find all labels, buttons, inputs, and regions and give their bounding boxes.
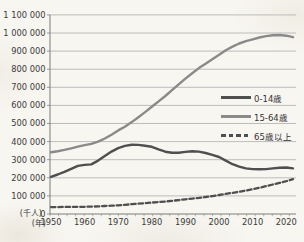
legend-line-sample-solid-dark-icon [221,96,251,99]
x-tick-label: 2000 [208,217,229,227]
legend-label: 0-14歳 [254,92,282,104]
y-tick-label: 100 000 [11,191,45,201]
y-tick-label: 200 000 [11,173,45,183]
series-line-age-65-plus [51,179,293,207]
population-age-line-chart: 0100 000200 000300 000400 000500 000600 … [0,0,304,242]
x-tick-label: 2020 [276,217,297,227]
x-tick-label: 2010 [242,217,263,227]
y-tick-label: 300 000 [11,155,45,165]
y-tick-label: 900 000 [11,46,45,56]
legend-item-age-15-64: 15-64歳 [221,107,292,126]
x-tick-label: 1980 [141,217,162,227]
y-tick-label: 800 000 [11,64,45,74]
y-tick-label: 700 000 [11,82,45,92]
x-axis-unit-label: (年) [0,217,46,228]
y-tick-label: 500 000 [11,118,45,128]
chart-legend: 0-14歳 15-64歳 65歳以上 [221,88,292,145]
legend-item-age-0-14: 0-14歳 [221,88,292,107]
y-tick-label: 1 100 000 [3,10,45,20]
x-tick-label: 1960 [74,217,95,227]
x-tick-label: 1990 [175,217,196,227]
legend-item-age-65-plus: 65歳以上 [221,126,292,145]
legend-label: 15-64歳 [254,111,288,123]
y-tick-label: 400 000 [11,137,45,147]
y-tick-label: 600 000 [11,100,45,110]
y-tick-label: 1 000 000 [3,28,45,38]
series-line-age-0-14 [51,145,293,177]
legend-line-sample-dashed-icon [221,134,251,137]
legend-label: 65歳以上 [254,130,292,142]
x-tick-label: 1970 [108,217,129,227]
legend-line-sample-solid-gray-icon [221,115,251,118]
